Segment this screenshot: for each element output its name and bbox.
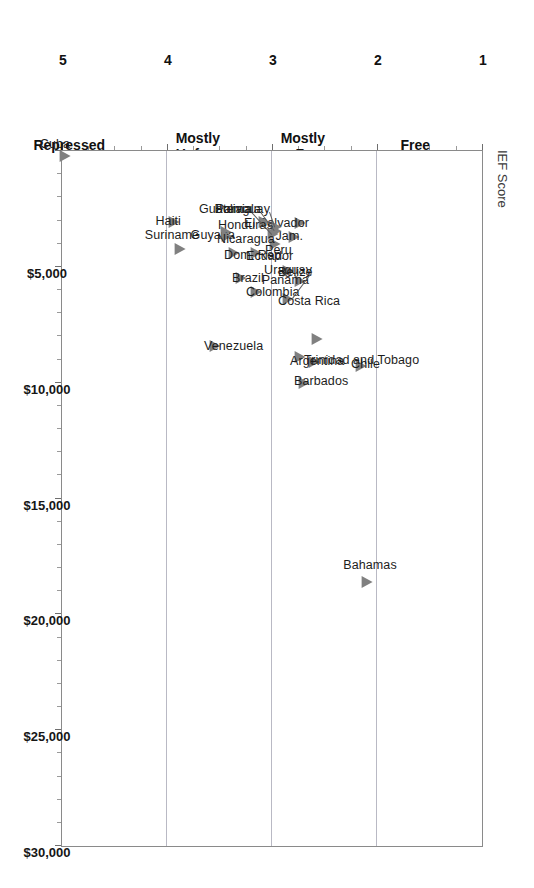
- ief-axis-number: 5: [59, 52, 67, 68]
- gdp-axis-tick: [57, 752, 61, 753]
- ief-axis-number: 4: [164, 52, 172, 68]
- gdp-axis-tick: [57, 776, 61, 777]
- ief-gridline: [376, 151, 377, 846]
- data-point-label: Haiti: [156, 214, 182, 228]
- gdp-axis-tick-label: $25,000: [24, 729, 71, 744]
- data-point-label: Barbados: [295, 374, 349, 388]
- gdp-axis-tick: [57, 335, 61, 336]
- data-point-marker[interactable]: [312, 333, 323, 345]
- ief-axis: 12345FreeMostly FreeMostly UnfreeRepress…: [61, 0, 483, 150]
- gdp-axis-tick: [57, 706, 61, 707]
- rotated-chart-stage: IEF Score 12345FreeMostly FreeMostly Unf…: [0, 0, 534, 888]
- gdp-axis-tick: [57, 660, 61, 661]
- data-point-marker[interactable]: [60, 150, 71, 162]
- value-axis-title: IEF Score: [495, 150, 510, 208]
- gdp-axis-tick: [57, 289, 61, 290]
- gdp-axis-tick: [57, 220, 61, 221]
- gdp-axis-tick-label: $30,000: [24, 845, 71, 860]
- gdp-axis-tick: [57, 822, 61, 823]
- ief-axis-number: 3: [269, 52, 277, 68]
- gdp-axis-tick: [57, 312, 61, 313]
- gdp-axis-tick-label: $15,000: [24, 498, 71, 513]
- data-point-marker[interactable]: [362, 576, 373, 588]
- data-point-label: Argentina: [290, 354, 344, 368]
- data-point-label: Suriname: [144, 228, 198, 242]
- gdp-axis-tick: [57, 521, 61, 522]
- data-point-marker[interactable]: [174, 243, 185, 255]
- gdp-axis: $5,000$10,000$15,000$20,000$25,000$30,00…: [1, 150, 61, 847]
- data-point-label: Brazil: [233, 271, 265, 285]
- gdp-axis-tick: [57, 451, 61, 452]
- data-point-label: Bahamas: [344, 558, 398, 572]
- ief-axis-number: 1: [479, 52, 487, 68]
- gdp-axis-tick: [57, 173, 61, 174]
- gdp-axis-tick: [57, 590, 61, 591]
- gdp-axis-tick: [57, 428, 61, 429]
- gdp-axis-tick: [57, 567, 61, 568]
- gdp-axis-tick-label: $10,000: [24, 382, 71, 397]
- gdp-axis-tick: [57, 243, 61, 244]
- gdp-axis-tick: [57, 405, 61, 406]
- data-point-label: Nicaragua: [217, 232, 275, 246]
- data-point-label: Venezuela: [204, 339, 263, 353]
- data-point-label: Cuba: [40, 137, 70, 151]
- ief-axis-number: 2: [374, 52, 382, 68]
- gdp-axis-tick-label: $5,000: [27, 266, 67, 281]
- plot-area: BahamasChileTrinidad and TobagoArgentina…: [61, 150, 483, 847]
- data-point-label: Bolivia: [215, 202, 253, 216]
- data-point-label: Uraguay: [264, 263, 312, 277]
- gdp-axis-tick: [57, 196, 61, 197]
- data-point-label: Dom. Rep.: [224, 248, 285, 262]
- gdp-axis-tick: [57, 474, 61, 475]
- gdp-axis-tick: [57, 683, 61, 684]
- ief-gridline: [166, 151, 167, 846]
- gdp-axis-tick: [57, 359, 61, 360]
- gdp-axis-tick: [57, 544, 61, 545]
- gdp-axis-tick-label: $20,000: [24, 613, 71, 628]
- gdp-axis-tick: [57, 799, 61, 800]
- gdp-axis-tick: [57, 637, 61, 638]
- gdp-axis-tick: [55, 150, 61, 151]
